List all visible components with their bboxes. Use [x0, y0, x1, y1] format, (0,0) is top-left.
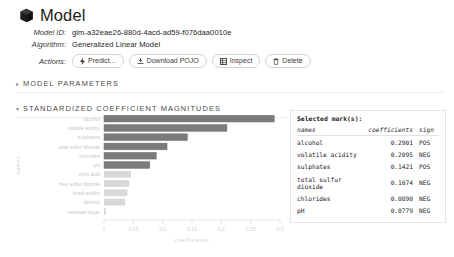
y-axis-label-chlorides: chlorides — [79, 153, 100, 159]
trash-icon — [273, 58, 279, 65]
table-row: alcohol0.2901POS — [297, 136, 439, 149]
download-pojo-button[interactable]: Download POJO — [129, 54, 207, 68]
actions-row: Actions: Predict... — [20, 54, 444, 68]
cell-sign: POS — [417, 136, 439, 149]
x-tick-label: 0.2 — [218, 226, 225, 232]
cube-icon — [19, 8, 34, 23]
coefficient-magnitudes-chart[interactable]: alcoholvolatile aciditysulphatestotal su… — [14, 112, 286, 252]
section-model-parameters[interactable]: ▸ MODEL PARAMETERS — [16, 79, 444, 93]
cell-coefficient: 0.2901 — [368, 136, 417, 149]
cell-sign: POS — [417, 161, 439, 173]
model-id-value: glm-a32eae26-880d-4acd-ad59-f076daa0010e — [72, 28, 232, 37]
column-header-sign: sign — [417, 126, 439, 136]
cell-coefficient: 0.2095 — [368, 148, 417, 160]
inspect-button[interactable]: Inspect — [212, 54, 261, 68]
grid-icon — [220, 58, 227, 65]
y-axis-label-total-sulfur-dioxide: total sulfur dioxide — [58, 144, 100, 150]
model-id-row: Model ID: glm-a32eae26-880d-4acd-ad59-f0… — [20, 28, 444, 37]
bar-density[interactable] — [104, 199, 125, 206]
page-title: Model — [40, 7, 85, 24]
cell-name: chlorides — [297, 192, 368, 204]
bar-pH[interactable] — [104, 162, 150, 169]
delete-button-label: Delete — [282, 57, 302, 65]
y-axis-label-pH: pH — [93, 162, 100, 168]
bar-free-sulfur-dioxide[interactable] — [104, 180, 129, 187]
table-row: sulphates0.1421POS — [297, 161, 439, 173]
model-card: Model Model ID: glm-a32eae26-880d-4acd-a… — [0, 0, 454, 257]
action-button-group: Predict... Download POJO — [72, 54, 311, 68]
x-tick-label: 0.05 — [128, 226, 138, 232]
table-row: total sulfur dioxide0.1074NEG — [297, 173, 439, 192]
bar-alcohol[interactable] — [104, 115, 274, 122]
x-tick-label: 0.15 — [187, 226, 197, 232]
chevron-down-icon: ▾ — [16, 106, 19, 112]
algorithm-row: Algorithm: Generalized Linear Model — [20, 40, 444, 49]
bar-volatile-acidity[interactable] — [104, 125, 227, 132]
actions-label: Actions: — [20, 57, 72, 66]
cell-name: pH — [297, 205, 368, 217]
bar-chlorides[interactable] — [104, 152, 156, 159]
cell-sign: NEG — [417, 205, 439, 217]
selected-marks-table: names coefficients sign alcohol0.2901POS… — [297, 126, 439, 217]
selected-marks-panel: Selected mark(s): names coefficients sig… — [290, 110, 446, 223]
column-header-coefficients: coefficients — [368, 126, 417, 136]
y-axis-label-sulphates: sulphates — [78, 134, 101, 140]
cell-coefficient: 0.1074 — [368, 173, 417, 192]
predict-button-label: Predict... — [88, 57, 116, 65]
x-tick-label: 0.25 — [246, 226, 256, 232]
x-tick-label: 0.1 — [159, 226, 166, 232]
table-row: chlorides0.0890NEG — [297, 192, 439, 204]
cell-sign: NEG — [417, 192, 439, 204]
model-header: Model — [14, 7, 444, 24]
algorithm-value: Generalized Linear Model — [72, 40, 160, 49]
cell-sign: NEG — [417, 148, 439, 160]
y-axis-label-fixed-acidity: fixed acidity — [73, 190, 101, 196]
cell-name: volatile acidity — [297, 148, 368, 160]
table-header-row: names coefficients sign — [297, 126, 439, 136]
y-axis-label-density: density — [84, 199, 101, 205]
download-icon — [137, 58, 144, 65]
section-model-parameters-label: MODEL PARAMETERS — [23, 79, 119, 88]
x-tick-label: 0.3 — [277, 226, 284, 232]
selected-marks-title: Selected mark(s): — [297, 115, 439, 123]
bar-sulphates[interactable] — [104, 134, 187, 141]
y-axis-label-alcohol: alcohol — [84, 116, 100, 122]
cell-coefficient: 0.1421 — [368, 161, 417, 173]
cell-name: sulphates — [297, 161, 368, 173]
y-axis-label-free-sulfur-dioxide: free sulfur dioxide — [59, 181, 100, 187]
y-axis-title: names — [15, 155, 21, 174]
chevron-right-icon: ▸ — [16, 81, 19, 87]
x-tick-label: 0 — [103, 226, 106, 232]
y-axis-label-volatile-acidity: volatile acidity — [68, 125, 101, 131]
y-axis-label-residual-sugar: residual sugar — [67, 209, 100, 215]
cell-coefficient: 0.0890 — [368, 192, 417, 204]
lightning-icon — [80, 58, 85, 65]
x-axis-title: coefficients — [175, 237, 210, 243]
algorithm-label: Algorithm: — [20, 40, 72, 49]
model-meta: Model ID: glm-a32eae26-880d-4acd-ad59-f0… — [20, 28, 444, 69]
cell-name: alcohol — [297, 136, 368, 149]
bar-citric-acid[interactable] — [104, 171, 131, 178]
y-axis-label-citric-acid: citric acid — [78, 171, 100, 177]
column-header-names: names — [297, 126, 368, 136]
cell-name: total sulfur dioxide — [297, 173, 368, 192]
bar-residual-sugar[interactable] — [104, 208, 106, 215]
table-row: volatile acidity0.2095NEG — [297, 148, 439, 160]
bar-total-sulfur-dioxide[interactable] — [104, 143, 167, 150]
cell-sign: NEG — [417, 173, 439, 192]
predict-button[interactable]: Predict... — [72, 54, 124, 68]
delete-button[interactable]: Delete — [265, 54, 310, 68]
table-row: pH0.0779NEG — [297, 205, 439, 217]
inspect-button-label: Inspect — [230, 57, 253, 65]
model-id-label: Model ID: — [20, 28, 72, 37]
download-pojo-button-label: Download POJO — [147, 57, 199, 65]
bar-fixed-acidity[interactable] — [104, 189, 127, 196]
cell-coefficient: 0.0779 — [368, 205, 417, 217]
